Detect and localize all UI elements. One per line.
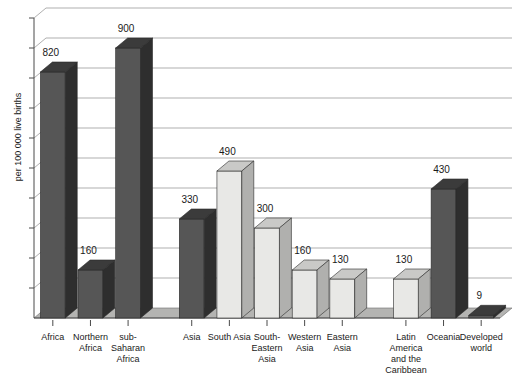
category-label-0: Africa <box>41 332 64 342</box>
category-label-3: Asia <box>183 332 201 342</box>
category-label-8: Latin <box>396 332 416 342</box>
category-label-6: Asia <box>296 343 314 353</box>
value-label-5: 300 <box>257 203 274 214</box>
category-label-2: Saharan <box>111 343 145 353</box>
category-label-7: Eastern <box>327 332 358 342</box>
maternal-mortality-bar-chart: per 100 000 live births 8201609003304903… <box>0 0 530 383</box>
category-label-2: Africa <box>117 354 140 364</box>
value-label-1: 160 <box>80 245 97 256</box>
category-label-6: Western <box>288 332 321 342</box>
bar-5 <box>255 218 292 318</box>
category-label-2: sub- <box>119 332 137 342</box>
category-label-10: Developed <box>460 332 503 342</box>
category-label-4: South Asia <box>208 332 251 342</box>
category-label-9: Oceania <box>427 332 461 342</box>
value-label-4: 490 <box>219 146 236 157</box>
category-label-5: Eastern <box>251 343 282 353</box>
value-label-10: 9 <box>476 290 482 301</box>
category-label-1: Northern <box>73 332 108 342</box>
value-label-7: 130 <box>332 254 349 265</box>
bar-7 <box>330 269 367 318</box>
category-label-8: Caribbean <box>385 365 427 375</box>
bar-8 <box>393 269 430 318</box>
bar-1 <box>78 260 115 318</box>
category-labels-group: AfricaNorthernAfricasub-SaharanAfricaAsi… <box>41 332 502 375</box>
value-label-6: 160 <box>294 245 311 256</box>
bar-9 <box>431 179 468 318</box>
category-label-1: Africa <box>79 343 102 353</box>
category-label-5: Asia <box>258 354 276 364</box>
category-label-7: Asia <box>334 343 352 353</box>
category-label-8: America <box>389 343 422 353</box>
bar-0 <box>40 62 77 318</box>
bar-3 <box>179 209 216 318</box>
bar-2 <box>116 38 153 318</box>
bar-4 <box>217 161 254 318</box>
category-label-10: world <box>469 343 492 353</box>
value-label-8: 130 <box>396 254 413 265</box>
bars-group <box>40 38 505 318</box>
bar-6 <box>292 260 329 318</box>
value-label-0: 820 <box>42 47 59 58</box>
value-label-2: 900 <box>118 23 135 34</box>
category-label-5: South- <box>254 332 281 342</box>
category-label-8: and the <box>391 354 421 364</box>
chart-plot-area: 8201609003304903001601301304309 AfricaNo… <box>0 0 530 383</box>
value-label-9: 430 <box>433 164 450 175</box>
value-label-3: 330 <box>181 194 198 205</box>
